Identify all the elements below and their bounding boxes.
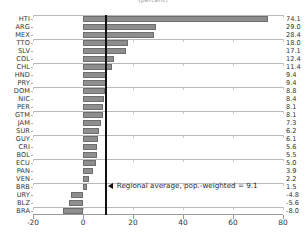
bar-row	[33, 119, 283, 127]
bar-bol	[83, 152, 97, 158]
value-label-pan: 3.9	[286, 167, 306, 175]
category-label-col: COL	[0, 55, 30, 63]
bar-ury	[71, 192, 83, 198]
bar-nic	[83, 96, 104, 102]
category-label-gtm: GTM	[0, 111, 30, 119]
category-label-dom: DOM	[0, 87, 30, 95]
category-label-slv: SLV	[0, 47, 30, 55]
bar-row	[33, 135, 283, 143]
value-label-mex: 28.4	[286, 31, 306, 39]
bar-hti	[83, 16, 268, 22]
bar-dom	[83, 88, 105, 94]
category-label-chl: CHL	[0, 63, 30, 71]
bar-mex	[83, 32, 154, 38]
regional-average-label: Regional average, pop.-weighted = 9.1	[117, 181, 258, 190]
x-tick-label: 0	[68, 218, 98, 227]
bar-row	[33, 95, 283, 103]
x-tick-label: 60	[218, 218, 248, 227]
bar-chart: (percent) HTIARGMEXTTOSLVCOLCHLHNDPRYDOM…	[0, 0, 306, 249]
category-label-sur: SUR	[0, 127, 30, 135]
value-label-hnd: 9.4	[286, 71, 306, 79]
minor-tick	[283, 207, 284, 210]
category-label-ecu: ECU	[0, 159, 30, 167]
category-label-blz: BLZ	[0, 199, 30, 207]
bar-sur	[83, 128, 99, 134]
bar-row	[33, 15, 283, 23]
value-label-per: 8.1	[286, 103, 306, 111]
category-label-bra: BRA	[0, 207, 30, 215]
minor-tick	[283, 87, 284, 90]
category-label-arg: ARG	[0, 23, 30, 31]
bar-per	[83, 104, 103, 110]
value-labels: 74.129.028.418.017.112.411.49.49.48.88.4…	[286, 15, 306, 215]
value-label-col: 12.4	[286, 55, 306, 63]
value-label-gtm: 8.1	[286, 111, 306, 119]
value-label-sur: 6.2	[286, 127, 306, 135]
bar-row	[33, 199, 283, 207]
value-label-nic: 8.4	[286, 95, 306, 103]
bar-pry	[83, 80, 107, 86]
value-label-slv: 17.1	[286, 47, 306, 55]
x-tick-label: -20	[18, 218, 48, 227]
value-label-hti: 74.1	[286, 15, 306, 23]
bar-chl	[83, 64, 112, 70]
bar-row	[33, 111, 283, 119]
bar-row	[33, 143, 283, 151]
bar-jam	[83, 120, 101, 126]
chart-title: (percent)	[0, 0, 306, 3]
value-label-bra: -8.0	[286, 207, 306, 215]
bar-row	[33, 167, 283, 175]
bar-blz	[69, 200, 83, 206]
value-label-brb: 1.5	[286, 183, 306, 191]
category-label-brb: BRB	[0, 183, 30, 191]
bar-row	[33, 71, 283, 79]
bar-arg	[83, 24, 156, 30]
category-label-mex: MEX	[0, 31, 30, 39]
bar-cri	[83, 144, 97, 150]
bar-ecu	[83, 160, 96, 166]
bar-row	[33, 79, 283, 87]
category-label-nic: NIC	[0, 95, 30, 103]
x-axis-line	[33, 214, 283, 215]
value-label-ven: 2.2	[286, 175, 306, 183]
x-tick-label: 40	[168, 218, 198, 227]
x-tick-label: 20	[118, 218, 148, 227]
bar-bra	[63, 208, 83, 214]
bar-row	[33, 87, 283, 95]
value-label-dom: 8.8	[286, 87, 306, 95]
bar-hnd	[83, 72, 107, 78]
category-label-bol: BOL	[0, 151, 30, 159]
category-axis: HTIARGMEXTTOSLVCOLCHLHNDPRYDOMNICPERGTMJ…	[0, 15, 30, 215]
value-label-ecu: 5.0	[286, 159, 306, 167]
value-label-blz: -5.6	[286, 199, 306, 207]
category-label-pan: PAN	[0, 167, 30, 175]
bar-row	[33, 47, 283, 55]
bar-pan	[83, 168, 93, 174]
value-label-guy: 6.1	[286, 135, 306, 143]
bar-gtm	[83, 112, 103, 118]
category-label-jam: JAM	[0, 119, 30, 127]
value-label-chl: 11.4	[286, 63, 306, 71]
minor-tick	[283, 15, 284, 18]
category-label-guy: GUY	[0, 135, 30, 143]
bar-row	[33, 39, 283, 47]
value-label-arg: 29.0	[286, 23, 306, 31]
regional-average-line	[105, 15, 107, 215]
bar-row	[33, 23, 283, 31]
bar-col	[83, 56, 114, 62]
category-label-per: PER	[0, 103, 30, 111]
category-label-tto: TTO	[0, 39, 30, 47]
minor-tick	[283, 183, 284, 186]
value-label-cri: 5.6	[286, 143, 306, 151]
bar-ven	[83, 176, 89, 182]
bar-brb	[83, 184, 87, 190]
minor-tick	[283, 39, 284, 42]
minor-tick	[283, 63, 284, 66]
bar-guy	[83, 136, 98, 142]
category-label-pry: PRY	[0, 79, 30, 87]
value-label-pry: 9.4	[286, 79, 306, 87]
value-label-tto: 18.0	[286, 39, 306, 47]
bar-row	[33, 151, 283, 159]
minor-tick	[283, 159, 284, 162]
regional-average-arrow-icon	[108, 183, 113, 189]
